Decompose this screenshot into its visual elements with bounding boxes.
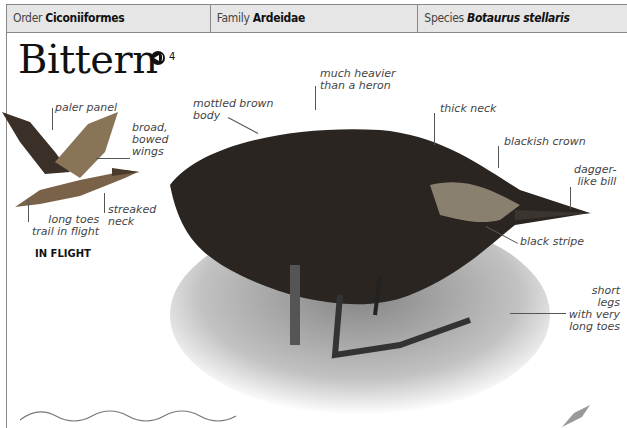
label-blackish-crown: blackish crown [504, 136, 586, 148]
in-flight-caption: IN FLIGHT [35, 248, 91, 259]
taxonomy-header: Order Ciconiiformes Family Ardeidae Spec… [6, 4, 627, 33]
label-streaked-neck: streaked neck [108, 204, 156, 228]
species-cell: Species Botaurus stellaris [418, 5, 627, 32]
label-black-stripe: black stripe [520, 236, 584, 248]
leader-line [28, 200, 29, 222]
label-thick-neck: thick neck [440, 103, 496, 115]
order-value: Ciconiiformes [45, 11, 124, 25]
label-much-heavier: much heavier than a heron [320, 68, 396, 92]
species-value: Botaurus stellaris [467, 11, 570, 25]
leader-line [104, 193, 105, 213]
left-margin-rule [6, 31, 7, 428]
bird-silhouette-corner [560, 405, 610, 428]
family-cell: Family Ardeidae [211, 5, 419, 32]
leader-line [434, 113, 435, 145]
leader-line [52, 108, 53, 130]
label-short-legs: short legs with very long toes [566, 285, 620, 333]
bittern-flight-illustration [0, 112, 150, 212]
label-dagger-bill: dagger- like bill [574, 164, 616, 188]
label-long-toes: long toes trail in flight [32, 214, 99, 238]
speaker-icon[interactable] [151, 51, 165, 65]
order-cell: Order Ciconiiformes [7, 5, 211, 32]
sound-track-number: 4 [169, 51, 175, 62]
species-label: Species [424, 11, 463, 25]
leader-line [498, 146, 499, 168]
leader-line [510, 313, 566, 314]
family-label: Family [217, 11, 250, 25]
page-title: Bittern [18, 36, 157, 82]
leader-line [570, 187, 571, 209]
family-value: Ardeidae [253, 11, 305, 25]
leader-line [315, 86, 316, 110]
order-label: Order [13, 11, 42, 25]
wave-divider [20, 406, 240, 426]
label-mottled-body: mottled brown body [193, 98, 274, 122]
label-paler-panel: paler panel [55, 102, 117, 114]
leader-line [96, 158, 130, 159]
bittern-main-illustration [160, 125, 610, 415]
